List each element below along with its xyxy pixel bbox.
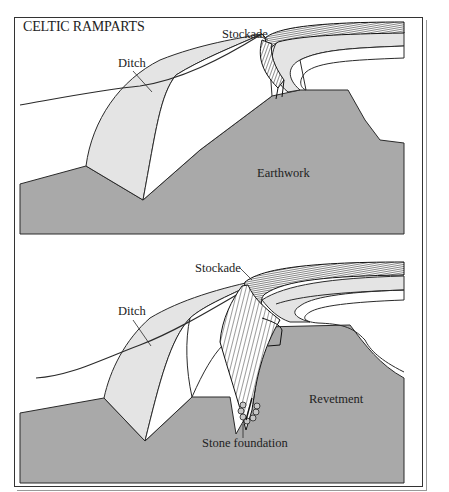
panel-top: CELTIC RAMPARTS Ditch Stockade Earthwork bbox=[20, 19, 404, 234]
label-stockade-bottom: Stockade bbox=[195, 261, 241, 275]
leader-stockade-bottom bbox=[240, 268, 252, 280]
label-ditch-top: Ditch bbox=[118, 56, 147, 70]
label-stone-foundation: Stone foundation bbox=[202, 436, 289, 450]
label-revetment: Revetment bbox=[309, 392, 364, 406]
label-stockade-top: Stockade bbox=[222, 27, 268, 41]
label-ditch-bottom: Ditch bbox=[118, 304, 147, 318]
celtic-ramparts-diagram: CELTIC RAMPARTS Ditch Stockade Earthwork bbox=[0, 0, 449, 492]
label-earthwork: Earthwork bbox=[257, 166, 311, 180]
diagram-title: CELTIC RAMPARTS bbox=[23, 19, 145, 34]
panel-bottom: Stockade Ditch Revetment Stone foundatio… bbox=[20, 261, 404, 483]
